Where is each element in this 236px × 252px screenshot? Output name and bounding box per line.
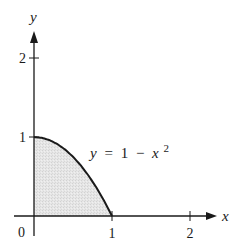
y-tick-label: 2 [19,51,26,66]
x-tick-label: 2 [187,226,194,241]
function-label-const: 1 [121,145,129,161]
chart-figure: 1212 x y 0 y = 1 − x 2 [0,0,236,252]
origin-label: 0 [18,225,25,240]
x-axis-label: x [221,208,229,224]
function-label-minus: − [136,145,144,161]
function-label-lhs: y [88,145,97,161]
y-axis-label: y [28,9,37,25]
chart-canvas: 1212 x y 0 y = 1 − x 2 [0,0,236,252]
function-label-var: x [151,145,159,161]
function-label-eq: = [104,145,112,161]
function-label-exponent: 2 [164,142,170,154]
x-tick-label: 1 [109,226,116,241]
y-tick-label: 1 [19,130,26,145]
y-axis-arrow-icon [30,31,38,43]
function-label: y = 1 − x 2 [88,142,169,161]
x-axis-arrow-icon [206,212,217,220]
